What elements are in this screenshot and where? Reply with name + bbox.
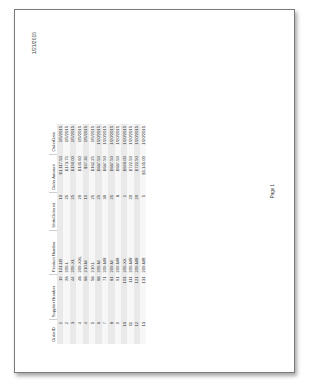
table-cell: $1,145.00	[140, 154, 146, 193]
landscape-content: 1/21/2015 Orders OrderID Supplier Number…	[15, 10, 294, 372]
column-header-supplier-number: Supplier Number	[49, 274, 57, 319]
column-header-order-amount: Order Amount	[49, 154, 57, 193]
table-cell: 209-MR	[140, 230, 146, 274]
orders-table: OrderID Supplier Number Product Number U…	[49, 124, 146, 344]
table-cell: 13	[140, 320, 146, 344]
column-header-order-date: OrderDate	[49, 124, 57, 154]
table-cell: 131	[140, 274, 146, 319]
column-header-units-ordered: UnitsOrdered	[49, 193, 57, 230]
page-number: Page 1	[270, 10, 275, 372]
column-header-product-number: Product Number	[49, 230, 57, 274]
column-header-order-id: OrderID	[49, 320, 57, 344]
table-header-row: OrderID Supplier Number Product Number U…	[49, 124, 57, 344]
table-cell: 5	[140, 193, 146, 230]
report-date: 1/21/2015	[31, 32, 37, 72]
table-row: 13131209-MR5$1,145.001/20/2015	[140, 124, 146, 344]
print-preview-page: 1/21/2015 Orders OrderID Supplier Number…	[14, 9, 295, 373]
table-cell: 1/20/2015	[140, 124, 146, 154]
